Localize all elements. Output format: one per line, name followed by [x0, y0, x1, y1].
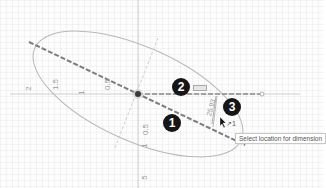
axis-label-v-5: 5	[140, 175, 149, 179]
axis-label-h-0-5: 0.5	[103, 79, 112, 90]
construction-line-endpoint[interactable]	[260, 92, 264, 96]
step-badge-1: 1	[163, 114, 181, 132]
step-number: 3	[229, 101, 236, 113]
axis-label-h-2: 2	[24, 86, 33, 90]
dimension-tooltip: Select location for dimension	[235, 133, 326, 144]
cursor-dimension-label: ↗1	[226, 120, 236, 128]
axis-label-h-1-5: 1.5	[51, 79, 60, 90]
center-point[interactable]	[135, 91, 141, 97]
step-number: 2	[178, 81, 185, 93]
step-number: 1	[169, 117, 176, 129]
step-badge-3: 3	[223, 98, 241, 116]
step-badge-2: 2	[172, 78, 190, 96]
axis-label-v-1: 1	[140, 143, 149, 147]
axis-label-v-0-5: 0.5	[141, 124, 150, 135]
dimension-value-box[interactable]	[193, 85, 207, 91]
axis-label-h-1: 1	[77, 90, 86, 94]
